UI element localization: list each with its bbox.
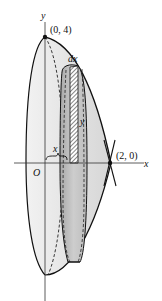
shell-thickness-label: dx bbox=[68, 53, 78, 64]
shell-cross-section bbox=[70, 66, 78, 163]
top-point-label: (0, 4) bbox=[50, 24, 72, 36]
shell-radius-label: x bbox=[52, 143, 58, 154]
point-top bbox=[43, 35, 47, 39]
x-axis-label: x bbox=[143, 158, 149, 169]
shell-method-diagram: y (0, 4) dx y x (2, 0) x O bbox=[0, 0, 162, 301]
origin-label: O bbox=[33, 167, 40, 178]
point-x-intercept bbox=[108, 161, 112, 165]
y-axis-label: y bbox=[40, 10, 46, 21]
shell-height-label: y bbox=[79, 116, 85, 127]
right-point-label: (2, 0) bbox=[116, 150, 138, 162]
